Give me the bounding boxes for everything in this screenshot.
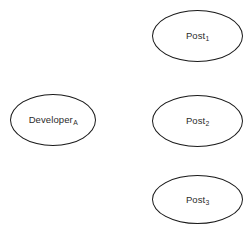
node-post-3-base: Post <box>186 195 205 205</box>
node-post-2-label: Post2 <box>186 116 209 126</box>
node-post-3-label: Post3 <box>186 195 209 205</box>
node-post-2-subscript: 2 <box>206 121 210 128</box>
node-post-2[interactable]: Post2 <box>152 95 243 147</box>
node-developer-a-label: DeveloperA <box>29 115 78 125</box>
node-post-3-subscript: 3 <box>206 200 210 207</box>
node-post-1-base: Post <box>186 31 205 41</box>
node-developer-a-base: Developer <box>29 115 73 125</box>
node-post-1-label: Post1 <box>186 31 209 41</box>
node-developer-a[interactable]: DeveloperA <box>10 94 96 146</box>
node-developer-a-subscript: A <box>73 120 78 127</box>
node-post-2-base: Post <box>186 116 205 126</box>
diagram-canvas: Post1 DeveloperA Post2 Post3 <box>0 0 251 227</box>
node-post-1-subscript: 1 <box>206 36 210 43</box>
node-post-1[interactable]: Post1 <box>152 10 243 62</box>
node-post-3[interactable]: Post3 <box>152 175 243 224</box>
